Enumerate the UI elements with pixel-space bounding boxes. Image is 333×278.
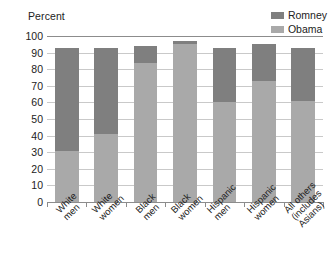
y-axis-tick-label: 90 bbox=[5, 47, 47, 59]
y-axis-title: Percent bbox=[28, 10, 65, 22]
stacked-bar[interactable] bbox=[213, 48, 237, 202]
bar-segment-romney[interactable] bbox=[134, 46, 158, 63]
x-axis-label-slot: Whitewomen bbox=[86, 206, 125, 276]
legend-item-obama: Obama bbox=[271, 23, 327, 35]
legend-label: Romney bbox=[288, 9, 327, 21]
stacked-bar[interactable] bbox=[291, 48, 315, 202]
x-axis-label-slot: Hispanicmen bbox=[205, 206, 244, 276]
x-axis-label-slot: Whitemen bbox=[47, 206, 86, 276]
bar-segment-romney[interactable] bbox=[291, 48, 315, 101]
bar-segment-romney[interactable] bbox=[173, 41, 197, 44]
x-axis-label-slot: Blackmen bbox=[126, 206, 165, 276]
legend-swatch-icon bbox=[271, 12, 284, 19]
y-axis-tick-label: 100 bbox=[5, 30, 47, 42]
bar-segment-obama[interactable] bbox=[173, 44, 197, 202]
bar-slot bbox=[205, 36, 244, 202]
y-axis-tick-label: 20 bbox=[5, 163, 47, 175]
y-axis-tick-label: 60 bbox=[5, 96, 47, 108]
stacked-bar[interactable] bbox=[55, 48, 79, 202]
y-axis-tick-label: 80 bbox=[5, 63, 47, 75]
x-axis-label-slot: Blackwomen bbox=[165, 206, 204, 276]
bar-slot bbox=[284, 36, 323, 202]
bar-segment-romney[interactable] bbox=[94, 48, 118, 134]
bar-segment-romney[interactable] bbox=[55, 48, 79, 151]
legend-label: Obama bbox=[288, 23, 322, 35]
y-axis-tick-label: 30 bbox=[5, 146, 47, 158]
bar-slot bbox=[126, 36, 165, 202]
bar-slot bbox=[86, 36, 125, 202]
stacked-bar[interactable] bbox=[94, 48, 118, 202]
y-axis-tick-label: 70 bbox=[5, 80, 47, 92]
legend-swatch-icon bbox=[271, 26, 284, 33]
stacked-bar-chart: Percent RomneyObama 10090807060504030201… bbox=[0, 0, 333, 278]
bar-segment-romney[interactable] bbox=[252, 44, 276, 81]
y-axis-tick-labels: 1009080706050403020100 bbox=[0, 36, 47, 202]
stacked-bar[interactable] bbox=[173, 41, 197, 202]
bar-slot bbox=[165, 36, 204, 202]
stacked-bar[interactable] bbox=[134, 46, 158, 202]
bar-segment-obama[interactable] bbox=[134, 63, 158, 202]
bar-slot bbox=[244, 36, 283, 202]
x-axis-label-slot: Hispanicwomen bbox=[244, 206, 283, 276]
plot-area bbox=[47, 36, 323, 202]
x-axis-category-labels: WhitemenWhitewomenBlackmenBlackwomenHisp… bbox=[47, 206, 323, 276]
y-axis-tick-label: 10 bbox=[5, 179, 47, 191]
bar-segment-romney[interactable] bbox=[213, 48, 237, 103]
bar-slot bbox=[47, 36, 86, 202]
legend-item-romney: Romney bbox=[271, 9, 327, 21]
y-axis-tick-label: 0 bbox=[5, 196, 47, 208]
bar-group bbox=[47, 36, 323, 202]
stacked-bar[interactable] bbox=[252, 44, 276, 202]
y-axis-tick-label: 40 bbox=[5, 130, 47, 142]
x-axis-label-slot: All others(includesAsians) bbox=[284, 206, 323, 276]
y-axis-tick-label: 50 bbox=[5, 113, 47, 125]
chart-legend: RomneyObama bbox=[271, 9, 327, 35]
